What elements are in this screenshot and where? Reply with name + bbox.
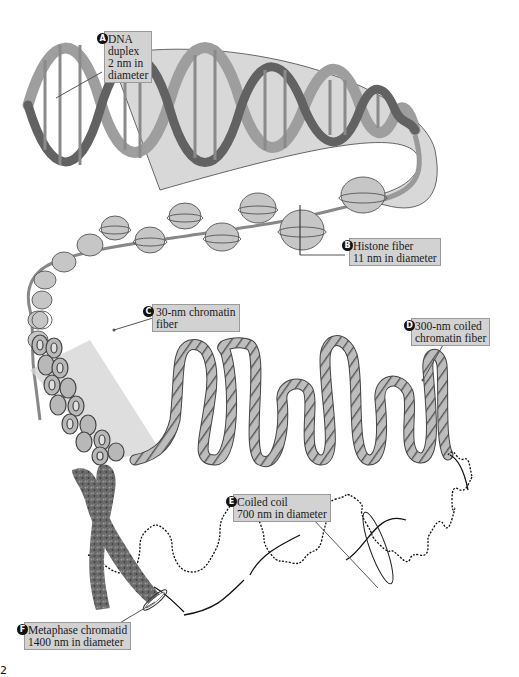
leader-line-e xyxy=(312,518,378,588)
label-metaphase-chromatid: Metaphase chromatid 1400 nm in diameter xyxy=(24,622,131,650)
metaphase-chromatid xyxy=(72,464,169,612)
badge-d: D xyxy=(404,320,415,331)
figure-number-fragment: 2 xyxy=(0,664,7,677)
label-300nm-fiber: 300-nm coiled chromatin fiber xyxy=(411,318,490,346)
label-a-line-3: 2 nm in xyxy=(108,57,148,69)
badge-c: C xyxy=(143,306,154,317)
badge-a: A xyxy=(97,33,108,44)
label-f-line-2: 1400 nm in diameter xyxy=(28,636,127,648)
label-e-line-1: Coiled coil xyxy=(237,496,327,508)
label-d-line-1: 300-nm coiled xyxy=(415,320,486,332)
label-f-line-1: Metaphase chromatid xyxy=(28,624,127,636)
label-a-line-1: DNA xyxy=(108,33,148,45)
leader-line-f xyxy=(118,602,155,624)
label-coiled-coil: Coiled coil 700 nm in diameter xyxy=(233,494,331,522)
badge-f: F xyxy=(17,624,28,635)
label-c-line-1: 30-nm chromatin xyxy=(156,306,236,318)
label-b-line-1: Histone fiber xyxy=(353,240,437,252)
label-histone-fiber: Histone fiber 11 nm in diameter xyxy=(349,238,441,266)
label-a-line-4: diameter xyxy=(108,69,148,81)
badge-e: E xyxy=(226,496,237,507)
badge-b: B xyxy=(342,240,353,251)
label-d-line-2: chromatin fiber xyxy=(415,332,486,344)
label-dna-duplex: DNA duplex 2 nm in diameter xyxy=(104,31,152,83)
label-a-line-2: duplex xyxy=(108,45,148,57)
label-30nm-fiber: 30-nm chromatin fiber xyxy=(152,304,240,332)
leader-line-c xyxy=(114,318,153,330)
label-c-line-2: fiber xyxy=(156,318,236,330)
label-e-line-2: 700 nm in diameter xyxy=(237,508,327,520)
label-b-line-2: 11 nm in diameter xyxy=(353,252,437,264)
300nm-coiled-fiber xyxy=(135,341,448,462)
